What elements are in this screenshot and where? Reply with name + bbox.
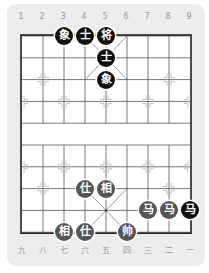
red-piece[interactable]: 相 bbox=[97, 180, 115, 198]
black-piece[interactable]: 士 bbox=[97, 49, 115, 67]
palace-center-dot bbox=[105, 209, 107, 211]
column-label-bottom: 二 bbox=[162, 244, 176, 255]
black-piece[interactable]: 将 bbox=[97, 27, 115, 45]
column-label-bottom: 九 bbox=[15, 244, 29, 255]
column-label-top: 8 bbox=[161, 12, 175, 21]
column-label-bottom: 八 bbox=[36, 244, 50, 255]
column-label-top: 7 bbox=[140, 12, 154, 21]
red-piece[interactable]: 仕 bbox=[76, 180, 94, 198]
column-label-top: 5 bbox=[98, 12, 112, 21]
red-piece[interactable]: 马 bbox=[160, 201, 178, 219]
column-label-top: 4 bbox=[77, 12, 91, 21]
black-piece[interactable]: 马 bbox=[181, 201, 199, 219]
column-label-bottom: 六 bbox=[78, 244, 92, 255]
column-label-bottom: 四 bbox=[120, 244, 134, 255]
column-label-top: 2 bbox=[35, 12, 49, 21]
black-piece[interactable]: 士 bbox=[76, 27, 94, 45]
red-piece[interactable]: 相 bbox=[55, 223, 73, 241]
column-label-bottom: 五 bbox=[99, 244, 113, 255]
black-piece[interactable]: 象 bbox=[97, 71, 115, 89]
column-label-bottom: 一 bbox=[183, 244, 197, 255]
red-piece[interactable]: 仕 bbox=[76, 223, 94, 241]
red-piece[interactable]: 帅 bbox=[118, 223, 136, 241]
column-label-top: 1 bbox=[14, 12, 28, 21]
column-label-top: 6 bbox=[119, 12, 133, 21]
column-label-bottom: 七 bbox=[57, 244, 71, 255]
black-piece[interactable]: 象 bbox=[55, 27, 73, 45]
column-label-top: 3 bbox=[56, 12, 70, 21]
red-piece[interactable]: 马 bbox=[139, 201, 157, 219]
column-label-bottom: 三 bbox=[141, 244, 155, 255]
column-label-top: 9 bbox=[182, 12, 196, 21]
